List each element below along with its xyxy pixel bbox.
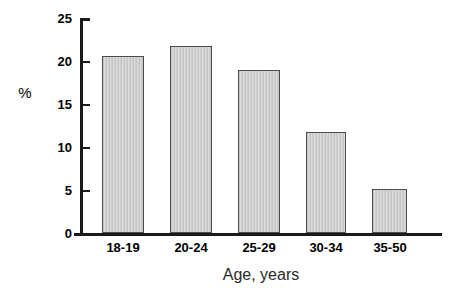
y-tick-label-20: 20: [44, 55, 72, 68]
y-tick-label-0: 0: [44, 227, 72, 240]
x-tick-label-25-29: 25-29: [223, 240, 295, 255]
bar-18-19[interactable]: [102, 56, 144, 233]
x-axis-tick-labels: 18-19 20-24 25-29 30-34 35-50: [80, 240, 442, 260]
y-axis-tick-labels: 25 20 15 10 5 0: [44, 0, 72, 297]
x-axis-title: Age, years: [80, 266, 442, 284]
y-axis-label: %: [8, 84, 42, 101]
x-tick-label-30-34: 30-34: [290, 240, 362, 255]
y-tick-label-5: 5: [44, 184, 72, 197]
bar-25-29[interactable]: [238, 70, 280, 233]
x-tick-label-18-19: 18-19: [87, 240, 159, 255]
x-axis-line: [74, 233, 442, 236]
y-axis-line: [80, 18, 83, 234]
bar-35-50[interactable]: [372, 189, 407, 233]
plot-area: [80, 18, 442, 234]
y-tick-mark-15: [83, 104, 90, 106]
x-tick-label-35-50: 35-50: [354, 240, 426, 255]
y-tick-mark-20: [83, 61, 90, 63]
bar-chart: % 25 20 15 10 5 0 18-19 20-24 25-29 30-3…: [0, 0, 454, 297]
y-tick-mark-10: [83, 147, 90, 149]
y-tick-label-10: 10: [44, 141, 72, 154]
y-tick-mark-5: [83, 190, 90, 192]
x-tick-label-20-24: 20-24: [155, 240, 227, 255]
bar-20-24[interactable]: [170, 46, 212, 233]
y-tick-mark-25: [80, 18, 90, 21]
y-tick-label-15: 15: [44, 98, 72, 111]
y-tick-label-25: 25: [44, 12, 72, 25]
bar-30-34[interactable]: [306, 132, 346, 233]
